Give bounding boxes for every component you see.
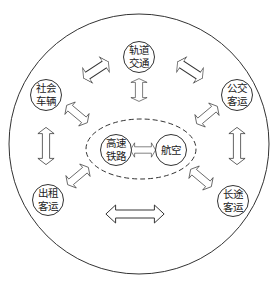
node-label-line2: 客运 bbox=[38, 200, 59, 212]
node-label-line2: 交通 bbox=[129, 57, 150, 69]
node-label-line1: 社会 bbox=[36, 82, 57, 94]
node-long-distance-bus: 长途 客运 bbox=[218, 186, 249, 217]
node-rail-transit: 轨道 交通 bbox=[124, 42, 155, 73]
arrow-private-vehicles-rail bbox=[79, 54, 114, 85]
arrow-public-bus-core bbox=[191, 100, 222, 130]
arrow-public-bus-long-distance bbox=[229, 127, 245, 164]
arrow-long-distance-core bbox=[185, 163, 216, 193]
node-label-line1: 公交 bbox=[227, 82, 248, 94]
arrow-private-vehicles-taxi bbox=[38, 127, 54, 164]
node-label-line2: 客运 bbox=[227, 95, 248, 107]
node-high-speed-rail: 高速 铁路 bbox=[101, 135, 132, 166]
node-label-line1: 轨道 bbox=[129, 44, 150, 56]
arrow-rail-public-bus bbox=[173, 54, 208, 85]
node-private-vehicles: 社会 车辆 bbox=[31, 80, 62, 111]
arrow-taxi-long-distance bbox=[106, 205, 164, 223]
arrow-taxi-core bbox=[62, 161, 93, 191]
node-label-line1: 高速 bbox=[106, 137, 127, 149]
arrow-private-vehicles-core bbox=[61, 99, 92, 129]
node-public-bus: 公交 客运 bbox=[222, 80, 253, 111]
node-label-line1: 出租 bbox=[38, 187, 59, 199]
node-label: 航空 bbox=[161, 144, 181, 156]
node-label-line2: 车辆 bbox=[36, 95, 56, 107]
node-label-line1: 长途 bbox=[223, 188, 244, 200]
arrow-hsr-aviation bbox=[130, 143, 155, 157]
transport-integration-diagram: 轨道 交通 社会 车辆 公交 客运 出租 客运 长途 客运 高速 铁路 航空 bbox=[0, 0, 271, 282]
node-label-line2: 客运 bbox=[223, 201, 244, 213]
arrow-rail-core bbox=[131, 79, 147, 102]
node-label-line2: 铁路 bbox=[106, 150, 127, 162]
node-taxi: 出租 客运 bbox=[33, 185, 64, 216]
node-aviation: 航空 bbox=[156, 135, 187, 166]
